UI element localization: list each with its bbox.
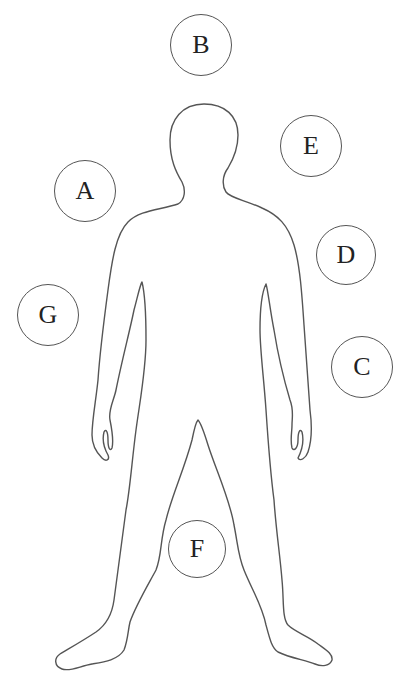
label-G-text: G <box>39 302 58 328</box>
label-E-text: E <box>303 133 319 159</box>
label-F-text: F <box>190 536 204 562</box>
label-G-marker[interactable]: G <box>17 284 79 346</box>
label-D-marker[interactable]: D <box>316 225 376 285</box>
label-D-text: D <box>337 242 356 268</box>
label-C-marker[interactable]: C <box>331 336 393 398</box>
label-B-marker[interactable]: B <box>170 14 232 76</box>
label-F-marker[interactable]: F <box>168 520 226 578</box>
label-C-text: C <box>353 354 370 380</box>
label-B-text: B <box>192 32 209 58</box>
label-A-marker[interactable]: A <box>54 160 116 222</box>
label-E-marker[interactable]: E <box>280 115 342 177</box>
label-A-text: A <box>76 178 95 204</box>
